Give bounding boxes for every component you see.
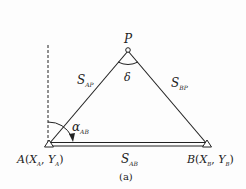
label-point-b: B(XB, YB) <box>186 153 234 167</box>
label-point-a: A(XA, YA) <box>16 153 64 167</box>
figure-caption: (a) <box>119 171 133 182</box>
angle-delta-arc <box>118 62 138 65</box>
label-p: P <box>123 32 133 46</box>
triangulation-diagram: P δ SAP SBP αAB A(XA, YA) SAB B(XB, YB) … <box>0 0 246 189</box>
side-bp <box>128 51 207 144</box>
label-delta: δ <box>124 71 131 84</box>
label-s-ab: SAB <box>121 152 139 167</box>
azimuth-arrow-icon <box>69 133 75 142</box>
azimuth-arc <box>48 122 72 137</box>
point-p-circle-icon <box>126 48 131 53</box>
label-s-bp: SBP <box>171 76 189 91</box>
baseline-ab <box>49 143 207 147</box>
label-alpha-ab: αAB <box>72 120 89 135</box>
label-s-ap: SAP <box>77 73 95 88</box>
